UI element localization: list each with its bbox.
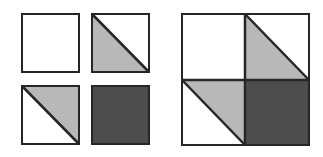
tile-dark	[92, 86, 149, 144]
tile-half-upper-right	[22, 86, 79, 144]
assembled-block	[182, 14, 309, 145]
block-quadrant-white	[182, 14, 245, 80]
separate-tiles-group	[22, 14, 149, 144]
tile-white	[22, 14, 79, 72]
quilt-diagram	[0, 0, 323, 157]
tile-half-lower-left	[92, 14, 149, 72]
block-quadrant-dark	[245, 80, 309, 145]
